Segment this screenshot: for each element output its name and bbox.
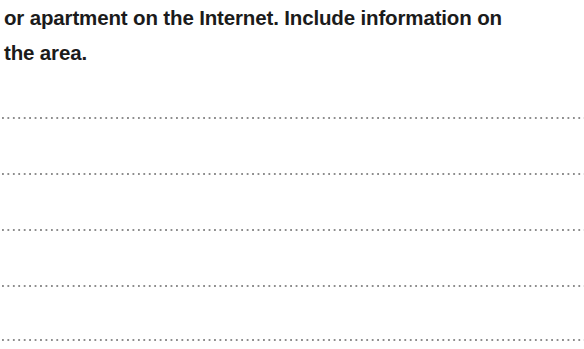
exercise-prompt: or apartment on the Internet. Include in… — [4, 0, 584, 70]
answer-line-3[interactable] — [2, 229, 584, 231]
answer-line-4[interactable] — [2, 285, 584, 287]
answer-line-5[interactable] — [2, 339, 584, 341]
answer-line-1[interactable] — [2, 117, 584, 119]
answer-line-2[interactable] — [2, 173, 584, 175]
worksheet-page: or apartment on the Internet. Include in… — [0, 0, 584, 349]
prompt-line-1: or apartment on the Internet. Include in… — [4, 0, 584, 35]
prompt-line-2: the area. — [4, 35, 584, 70]
